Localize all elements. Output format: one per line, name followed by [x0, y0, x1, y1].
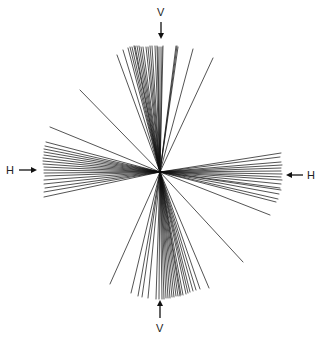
ray-lines [43, 46, 282, 299]
bottom-v-marker: V [156, 300, 164, 334]
orientation-diagram: V V H H [0, 0, 317, 337]
right-arrow-head-icon [31, 167, 37, 173]
left-h-marker: H [6, 164, 37, 176]
ray-line-top [160, 49, 193, 172]
top-v-marker: V [157, 6, 165, 39]
ray-line-right [160, 162, 281, 172]
top-v-label: V [157, 6, 165, 18]
ray-line-bottom [110, 172, 160, 284]
left-h-label: H [6, 164, 14, 176]
ray-line-left [44, 152, 160, 172]
down-arrow-head-icon [158, 33, 164, 39]
right-h-label: H [307, 169, 315, 181]
right-h-marker: H [286, 169, 315, 181]
ray-line-right [160, 172, 279, 194]
bottom-v-label: V [156, 322, 164, 334]
ray-line-right [160, 153, 281, 172]
